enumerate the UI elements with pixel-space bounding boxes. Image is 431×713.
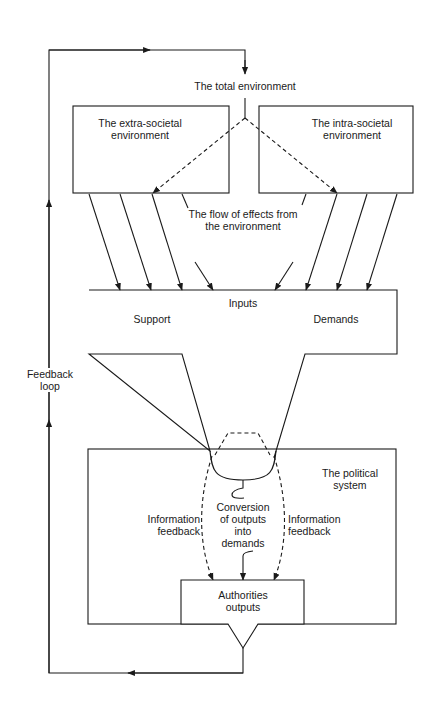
flow-line2: the environment xyxy=(178,220,308,232)
info-feedback-right-label: Information feedback xyxy=(288,513,348,537)
conversion-bowl xyxy=(210,451,276,480)
political-system-line2: system xyxy=(315,479,385,491)
feedback-loop-line2: loop xyxy=(20,380,80,392)
intra-societal-label: The intra-societal environment xyxy=(297,117,407,141)
intra-societal-line2: environment xyxy=(297,129,407,141)
total-environment-label: The total environment xyxy=(185,80,305,92)
conversion-arrow xyxy=(243,551,253,580)
authorities-line1: Authorities xyxy=(208,589,278,601)
political-system-label: The political system xyxy=(315,467,385,491)
authorities-outputs-label: Authorities outputs xyxy=(208,589,278,613)
political-system-line1: The political xyxy=(315,467,385,479)
flow-line1: The flow of effects from xyxy=(178,208,308,220)
feedback-loop-line1: Feedback xyxy=(20,368,80,380)
extra-societal-line1: The extra-societal xyxy=(85,117,195,129)
feedback-loop-label: Feedback loop xyxy=(20,368,80,392)
info-feedback-right-line2: feedback xyxy=(288,525,348,537)
authorities-line2: outputs xyxy=(208,601,278,613)
conversion-line2: of outputs xyxy=(208,513,278,525)
inputs-label: Inputs xyxy=(213,297,273,309)
support-label: Support xyxy=(122,313,182,325)
squiggle xyxy=(232,480,244,498)
demands-label: Demands xyxy=(306,313,366,325)
info-feedback-left-label: Information feedback xyxy=(140,513,200,537)
conversion-label: Conversion of outputs into demands xyxy=(208,501,278,549)
info-feedback-left-line1: Information xyxy=(140,513,200,525)
info-feedback-left-line2: feedback xyxy=(140,525,200,537)
conversion-line3: into xyxy=(208,525,278,537)
extra-societal-label: The extra-societal environment xyxy=(85,117,195,141)
info-feedback-right-line1: Information xyxy=(288,513,348,525)
dashed-dome xyxy=(215,433,270,455)
conversion-line1: Conversion xyxy=(208,501,278,513)
intra-societal-line1: The intra-societal xyxy=(297,117,407,129)
flow-of-effects-label: The flow of effects from the environment xyxy=(178,208,308,232)
extra-societal-line2: environment xyxy=(85,129,195,141)
conversion-line4: demands xyxy=(208,537,278,549)
